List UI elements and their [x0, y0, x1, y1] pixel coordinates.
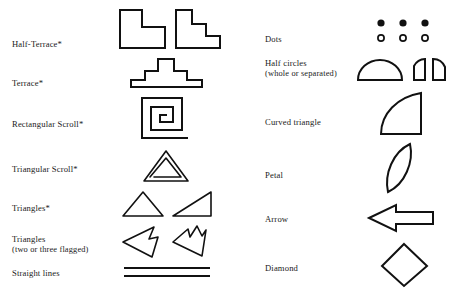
- filled-dot-glyph: [377, 19, 384, 26]
- label-terrace: Terrace*: [12, 78, 43, 89]
- left-column: Half-Terrace* Terrace* Rectangular Sc: [0, 0, 229, 295]
- label-half-circles-line1: Half circles: [265, 58, 307, 68]
- right-column: Dots Half circles (whole or separated): [229, 0, 458, 295]
- glyph-group-dots: [373, 16, 443, 50]
- diamond-glyph: [382, 244, 427, 286]
- half-terrace-one-step-glyph: [120, 10, 165, 48]
- glyph-group-rectangular-scroll: [138, 94, 196, 142]
- curved-triangle-glyph: [381, 93, 421, 134]
- half-terrace-two-step-glyph: [176, 10, 220, 48]
- glyph-group-diamond: [377, 240, 433, 290]
- filled-dot-glyph: [399, 19, 406, 26]
- two-flagged-triangle-glyph: [123, 227, 158, 257]
- label-rectangular-scroll: Rectangular Scroll*: [12, 119, 83, 130]
- glyph-group-petal: [379, 142, 429, 196]
- label-half-terrace: Half-Terrace*: [12, 39, 62, 50]
- glyph-group-triangular-scroll: [140, 148, 194, 186]
- glyph-group-straight-lines: [122, 264, 214, 282]
- glyph-group-triangles: [120, 188, 216, 220]
- quarter-circle-left-glyph: [414, 59, 425, 80]
- semicircle-glyph: [358, 60, 402, 80]
- petal-glyph: [387, 144, 411, 192]
- quarter-circle-right-glyph: [433, 59, 445, 80]
- rectangular-spiral-glyph: [142, 98, 188, 138]
- open-circle-glyph: [422, 35, 428, 41]
- open-circle-glyph: [378, 35, 384, 41]
- glyph-group-half-terrace: [118, 6, 223, 52]
- label-straight-lines: Straight lines: [12, 268, 60, 279]
- glyph-group-arrow: [365, 202, 443, 234]
- three-flagged-triangle-glyph: [173, 226, 206, 256]
- label-petal: Petal: [265, 170, 283, 181]
- label-curved-triangle: Curved triangle: [265, 117, 321, 128]
- right-triangle-glyph: [173, 192, 211, 216]
- label-half-circles: Half circles (whole or separated): [265, 58, 337, 79]
- filled-dot-glyph: [421, 19, 428, 26]
- label-arrow: Arrow: [265, 214, 288, 225]
- isoceles-triangle-glyph: [123, 192, 163, 216]
- stepped-terrace-glyph: [131, 59, 202, 87]
- open-circle-glyph: [400, 35, 406, 41]
- label-triangular-scroll: Triangular Scroll*: [12, 164, 78, 175]
- glyph-group-flagged-triangles: [118, 224, 216, 262]
- label-dots: Dots: [265, 34, 282, 45]
- label-diamond: Diamond: [265, 263, 298, 274]
- parallel-straight-lines-glyph: [124, 268, 210, 276]
- motif-legend-figure: Half-Terrace* Terrace* Rectangular Sc: [0, 0, 458, 295]
- glyph-group-curved-triangle: [375, 90, 435, 140]
- left-arrow-glyph: [369, 205, 433, 231]
- label-triangles: Triangles*: [12, 203, 50, 214]
- label-flagged-triangles: Triangles (two or three flagged): [12, 234, 89, 255]
- label-flagged-triangles-line1: Triangles: [12, 234, 46, 244]
- glyph-group-half-circles: [355, 56, 455, 86]
- glyph-group-terrace: [128, 54, 214, 90]
- label-flagged-triangles-line2: (two or three flagged): [12, 245, 89, 256]
- label-half-circles-line2: (whole or separated): [265, 69, 337, 80]
